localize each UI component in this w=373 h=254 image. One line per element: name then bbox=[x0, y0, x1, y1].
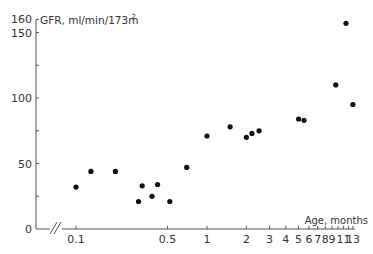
data-point bbox=[244, 135, 249, 140]
data-point bbox=[155, 182, 160, 187]
x-tick-label: 9 bbox=[329, 233, 336, 246]
data-point bbox=[136, 199, 141, 204]
y-tick-label: 150 bbox=[11, 27, 32, 40]
x-tick-label: 7 bbox=[314, 233, 321, 246]
x-tick-label: 0.1 bbox=[67, 233, 85, 246]
x-tick-label: 4 bbox=[282, 233, 289, 246]
x-tick-label: 5 bbox=[295, 233, 302, 246]
data-point bbox=[333, 82, 338, 87]
data-point bbox=[204, 133, 209, 138]
data-point bbox=[343, 21, 348, 26]
data-point bbox=[149, 194, 154, 199]
x-tick-label: 2 bbox=[243, 233, 250, 246]
data-point bbox=[301, 118, 306, 123]
data-point bbox=[88, 169, 93, 174]
data-point bbox=[73, 185, 78, 190]
x-tick-label: 3 bbox=[266, 233, 273, 246]
axis-break-mark bbox=[54, 222, 61, 234]
y-tick-label: 160 bbox=[11, 13, 32, 26]
data-point bbox=[228, 124, 233, 129]
data-point bbox=[113, 169, 118, 174]
data-point bbox=[350, 102, 355, 107]
axis-break-mark bbox=[50, 222, 57, 234]
x-axis-label: Age, months bbox=[305, 215, 368, 226]
x-tick-label: 6 bbox=[305, 233, 312, 246]
data-points bbox=[73, 21, 355, 204]
gfr-vs-age-chart: 0501001501600.10.51234567891113 GFR, ml/… bbox=[0, 0, 373, 254]
y-tick-label: 50 bbox=[18, 158, 32, 171]
axes: 0501001501600.10.51234567891113 bbox=[11, 13, 360, 246]
data-point bbox=[140, 183, 145, 188]
data-point bbox=[257, 128, 262, 133]
data-point bbox=[296, 116, 301, 121]
x-tick-label: 1 bbox=[204, 233, 211, 246]
y-tick-label: 100 bbox=[11, 92, 32, 105]
x-tick-label: 13 bbox=[346, 233, 360, 246]
y-tick-label: 0 bbox=[25, 223, 32, 236]
chart-canvas: 0501001501600.10.51234567891113 GFR, ml/… bbox=[0, 0, 373, 254]
data-point bbox=[184, 165, 189, 170]
data-point bbox=[167, 199, 172, 204]
data-point bbox=[249, 131, 254, 136]
x-tick-label: 0.5 bbox=[159, 233, 177, 246]
y-axis-label: GFR, ml/min/173m2 bbox=[40, 13, 138, 26]
